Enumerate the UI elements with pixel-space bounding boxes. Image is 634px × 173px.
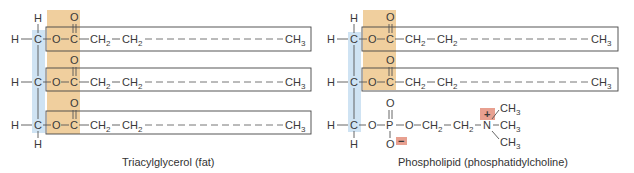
svg-text:CH2: CH2	[405, 33, 426, 48]
lipid-structures-diagram: H H H C O C O CH2 CH2 CH3 H	[0, 0, 634, 173]
phospholipid-structure: H H H C O C O CH2 CH2 CH3 H	[327, 10, 618, 168]
svg-text:CH2: CH2	[90, 33, 111, 48]
caption-phospholipid: Phospholipid (phosphatidylcholine)	[398, 156, 568, 168]
atom-h-bottom: H	[350, 138, 358, 150]
atom-h-top: H	[34, 12, 42, 24]
svg-text:H: H	[327, 33, 335, 45]
svg-text:O: O	[70, 54, 79, 66]
svg-text:O: O	[386, 97, 395, 109]
atom-h-top: H	[350, 12, 358, 24]
fatty-acid-box-3	[46, 111, 311, 134]
svg-text:O: O	[386, 11, 395, 23]
svg-text:O: O	[368, 76, 377, 88]
svg-text:CH3: CH3	[591, 76, 612, 91]
svg-text:C: C	[350, 76, 358, 88]
svg-text:C: C	[34, 119, 42, 131]
svg-text:O: O	[70, 11, 79, 23]
svg-text:O: O	[52, 76, 61, 88]
svg-text:CH2: CH2	[90, 76, 111, 91]
svg-text:O: O	[52, 33, 61, 45]
svg-text:C: C	[34, 76, 42, 88]
svg-text:CH2: CH2	[437, 76, 458, 91]
ester-linkage-highlight	[47, 10, 80, 134]
atom-h-bottom: H	[34, 138, 42, 150]
phosphorus-atom: P	[386, 119, 393, 131]
fatty-acid-box-2	[362, 68, 618, 91]
triacylglycerol-structure: H H H C O C O CH2 CH2 CH3 H	[11, 10, 311, 168]
svg-text:O: O	[386, 54, 395, 66]
svg-text:CH2: CH2	[122, 76, 143, 91]
negative-charge: −	[398, 135, 404, 147]
svg-text:CH2: CH2	[122, 33, 143, 48]
svg-text:H: H	[11, 119, 19, 131]
svg-text:O: O	[405, 119, 414, 131]
svg-text:C: C	[70, 33, 78, 45]
svg-text:O: O	[368, 33, 377, 45]
svg-text:H: H	[11, 33, 19, 45]
svg-text:O: O	[70, 97, 79, 109]
svg-text:O: O	[368, 119, 377, 131]
caption-triacylglycerol: Triacylglycerol (fat)	[122, 156, 215, 168]
svg-text:H: H	[327, 76, 335, 88]
svg-text:CH2: CH2	[90, 119, 111, 134]
svg-text:CH2: CH2	[422, 119, 443, 134]
svg-text:CH2: CH2	[122, 119, 143, 134]
svg-text:C: C	[386, 76, 394, 88]
nitrogen-atom: N	[483, 119, 491, 131]
svg-text:C: C	[70, 119, 78, 131]
svg-text:CH3: CH3	[285, 33, 306, 48]
fatty-acid-box-2	[46, 68, 311, 91]
svg-text:CH3: CH3	[500, 102, 521, 117]
svg-text:C: C	[34, 33, 42, 45]
svg-text:CH2: CH2	[437, 33, 458, 48]
svg-text:CH2: CH2	[453, 119, 474, 134]
svg-text:CH3: CH3	[500, 136, 521, 151]
svg-text:CH3: CH3	[285, 76, 306, 91]
svg-text:CH3: CH3	[591, 33, 612, 48]
svg-text:C: C	[350, 119, 358, 131]
svg-text:C: C	[70, 76, 78, 88]
svg-text:H: H	[327, 119, 335, 131]
svg-text:CH3: CH3	[500, 119, 521, 134]
svg-text:C: C	[350, 33, 358, 45]
svg-text:C: C	[386, 33, 394, 45]
svg-text:CH2: CH2	[405, 76, 426, 91]
svg-text:H: H	[11, 76, 19, 88]
svg-text:O: O	[52, 119, 61, 131]
svg-text:CH3: CH3	[285, 119, 306, 134]
svg-text:O: O	[386, 138, 395, 150]
